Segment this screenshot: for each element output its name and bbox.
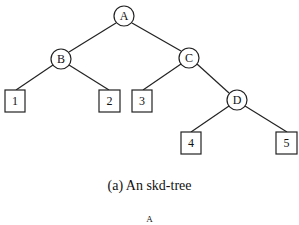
edge-c-3 — [143, 64, 181, 90]
svg-text:B: B — [57, 52, 65, 66]
node-b: B — [51, 49, 71, 69]
svg-text:1: 1 — [12, 94, 18, 108]
node-a: A — [114, 6, 134, 26]
svg-text:2: 2 — [107, 94, 113, 108]
edge-d-5 — [245, 106, 287, 132]
leaf-3: 3 — [132, 90, 152, 112]
svg-text:C: C — [185, 51, 193, 65]
svg-text:5: 5 — [284, 136, 290, 150]
edge-c-d — [197, 64, 229, 93]
node-d: D — [227, 90, 247, 110]
edge-a-c — [132, 23, 181, 51]
edge-d-4 — [191, 106, 229, 132]
leaf-5: 5 — [276, 132, 297, 154]
edge-b-2 — [69, 65, 109, 90]
leaf-1: 1 — [5, 90, 25, 112]
leaf-2: 2 — [99, 90, 120, 112]
svg-text:A: A — [120, 9, 129, 23]
edge-a-b — [69, 23, 116, 52]
figure-caption: (a) An skd-tree — [0, 178, 299, 194]
next-figure-partial-label: A — [0, 214, 299, 224]
edge-b-1 — [16, 65, 53, 90]
svg-text:D: D — [233, 93, 242, 107]
svg-text:4: 4 — [188, 136, 194, 150]
svg-text:3: 3 — [139, 94, 145, 108]
leaf-4: 4 — [181, 132, 201, 154]
node-c: C — [179, 48, 199, 68]
